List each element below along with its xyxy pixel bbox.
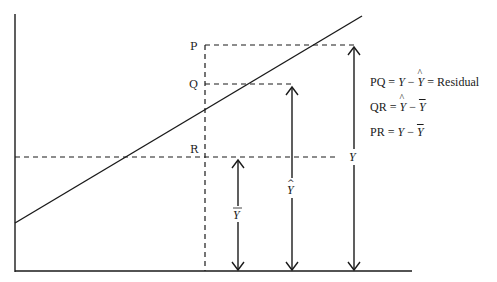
- point-label-r: R: [190, 143, 199, 156]
- regression-line: [15, 16, 362, 223]
- legend-pr-lhs: PR: [370, 125, 385, 139]
- point-label-p: P: [190, 40, 198, 53]
- y-label: Y: [349, 150, 357, 164]
- y-hat-label: Y ^: [287, 178, 295, 197]
- regression-decomposition-diagram: P Q R Y Y ^ Y: [0, 0, 497, 282]
- svg-text:Y: Y: [233, 208, 241, 222]
- y-bar-label: Y: [233, 208, 242, 222]
- legend-qr: QR = Y − Y: [370, 100, 426, 115]
- residual-text: Residual: [437, 75, 479, 89]
- legend-pr: PR = Y − Y: [370, 125, 424, 140]
- svg-text:^: ^: [287, 178, 295, 188]
- legend-qr-lhs: QR: [370, 100, 387, 114]
- point-label-q: Q: [189, 78, 198, 91]
- legend-pq-lhs: PQ: [370, 75, 385, 89]
- legend-pq: PQ = Y − Y = Residual: [370, 75, 479, 90]
